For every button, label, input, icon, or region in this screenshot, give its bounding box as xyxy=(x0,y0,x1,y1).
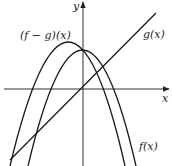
x-axis-label: x xyxy=(162,92,169,105)
function-graph: y x (f − g)(x) g(x) f(x) xyxy=(0,0,172,166)
g-label: g(x) xyxy=(143,28,165,41)
f-minus-g-label: (f − g)(x) xyxy=(20,29,71,42)
f-curve xyxy=(28,50,136,166)
f-minus-g-curve xyxy=(10,42,125,166)
y-axis-label: y xyxy=(72,0,80,13)
f-label: f(x) xyxy=(138,140,158,153)
